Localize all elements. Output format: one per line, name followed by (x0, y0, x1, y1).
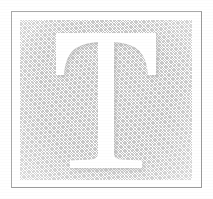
letter-t-glyph (20, 20, 192, 180)
letter-fill-layer (56, 33, 156, 168)
decorative-initial-plate (0, 0, 213, 199)
